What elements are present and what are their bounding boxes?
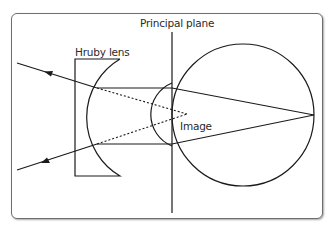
principal-plane-label: Principal plane: [140, 17, 214, 29]
upper-arrow-icon: [44, 71, 53, 77]
optics-diagram: [0, 0, 334, 230]
eye-globe: [172, 44, 314, 186]
cornea: [151, 83, 172, 146]
image-label: Image: [180, 120, 212, 132]
hruby-lens: [75, 59, 120, 176]
hruby-lens-label: Hruby lens: [75, 46, 130, 58]
lower-ray-external: [17, 144, 97, 170]
upper-ray-external: [17, 63, 97, 88]
upper-ray-internal: [97, 88, 314, 115]
